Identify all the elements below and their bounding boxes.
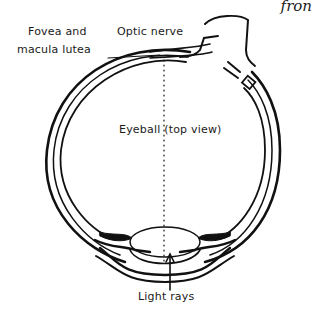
corner-text: fron (281, 0, 312, 15)
ciliary-body-left (100, 232, 132, 241)
iris (95, 240, 235, 252)
optic-nerve-shape (180, 16, 255, 66)
ciliary-body-right (198, 232, 230, 241)
lens (130, 227, 200, 257)
label-fovea-line1: Fovea and (28, 25, 87, 38)
retina-layer (61, 60, 265, 240)
choroid-layer (53, 55, 272, 255)
figure-title: Eyeball (top view) (119, 123, 222, 136)
nerve-fibers (224, 62, 240, 78)
label-optic-nerve: Optic nerve (117, 25, 183, 38)
label-light-rays: Light rays (138, 290, 194, 303)
label-fovea-line2: macula lutea (17, 43, 91, 56)
